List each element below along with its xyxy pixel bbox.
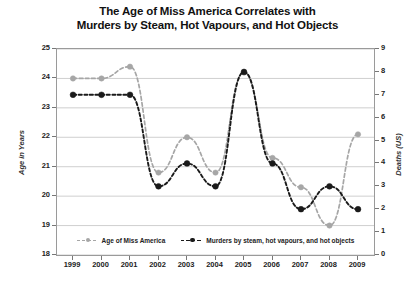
x-tickmark-2002 bbox=[158, 256, 159, 260]
x-tickmark-2001 bbox=[129, 256, 130, 260]
right-tickmark-7 bbox=[375, 94, 379, 95]
data-point-murders-2005 bbox=[241, 69, 247, 75]
x-tickmark-2006 bbox=[272, 256, 273, 260]
left-tickmark-23 bbox=[52, 107, 56, 108]
data-point-age-2004 bbox=[213, 170, 218, 175]
legend-swatch-icon bbox=[77, 237, 99, 244]
right-axis-tick-2: 2 bbox=[381, 203, 403, 212]
legend-marker-dot bbox=[190, 238, 195, 243]
x-tickmark-2005 bbox=[243, 256, 244, 260]
x-tickmark-2008 bbox=[329, 256, 330, 260]
right-axis-tick-0: 0 bbox=[381, 249, 403, 258]
data-point-age-2008 bbox=[327, 223, 332, 228]
left-axis-tick-20: 20 bbox=[28, 190, 50, 199]
legend-entry-murders-by-steam[interactable]: Murders by steam, hot vapours, and hot o… bbox=[181, 237, 354, 244]
left-axis-title: Age in Years bbox=[17, 123, 26, 183]
data-point-age-2001 bbox=[127, 64, 132, 69]
left-axis-tick-22: 22 bbox=[28, 131, 50, 140]
x-tickmark-2004 bbox=[215, 256, 216, 260]
left-axis-tick-24: 24 bbox=[28, 72, 50, 81]
data-point-murders-2003 bbox=[184, 161, 190, 167]
chart-title-line-2: Murders by Steam, Hot Vapours, and Hot O… bbox=[0, 18, 415, 32]
legend-marker-dot bbox=[86, 238, 91, 243]
data-point-age-2006 bbox=[270, 155, 275, 160]
data-point-age-1999 bbox=[70, 76, 75, 81]
left-tickmark-20 bbox=[52, 195, 56, 196]
chart-title-line-1: The Age of Miss America Correlates with bbox=[0, 4, 415, 18]
chart-title: The Age of Miss America Correlates with … bbox=[0, 4, 415, 32]
legend-swatch-icon bbox=[181, 237, 203, 244]
x-tickmark-2000 bbox=[101, 256, 102, 260]
right-tickmark-0 bbox=[375, 254, 379, 255]
x-axis-tick-2009: 2009 bbox=[340, 260, 374, 269]
right-axis-tick-9: 9 bbox=[381, 43, 403, 52]
plot-area bbox=[56, 48, 375, 256]
left-tickmark-25 bbox=[52, 48, 56, 49]
left-tickmark-19 bbox=[52, 225, 56, 226]
data-point-murders-2004 bbox=[213, 183, 219, 189]
left-axis-tick-19: 19 bbox=[28, 220, 50, 229]
x-tickmark-2007 bbox=[300, 256, 301, 260]
data-point-murders-2006 bbox=[270, 161, 276, 167]
left-tickmark-22 bbox=[52, 136, 56, 137]
right-axis-tick-6: 6 bbox=[381, 112, 403, 121]
data-point-murders-2008 bbox=[327, 183, 333, 189]
left-tickmark-18 bbox=[52, 254, 56, 255]
right-tickmark-5 bbox=[375, 140, 379, 141]
legend-label: Age of Miss America bbox=[102, 237, 166, 244]
left-axis-tick-18: 18 bbox=[28, 249, 50, 258]
plot-canvas bbox=[57, 49, 374, 255]
left-tickmark-24 bbox=[52, 77, 56, 78]
left-axis-tick-21: 21 bbox=[28, 161, 50, 170]
right-axis-tick-1: 1 bbox=[381, 226, 403, 235]
left-axis-tick-23: 23 bbox=[28, 102, 50, 111]
data-point-age-2002 bbox=[156, 170, 161, 175]
right-axis-title: Deaths (US) bbox=[394, 125, 403, 185]
data-point-age-2009 bbox=[355, 132, 360, 137]
data-point-age-2000 bbox=[99, 76, 104, 81]
right-axis-tick-7: 7 bbox=[381, 89, 403, 98]
right-tickmark-6 bbox=[375, 117, 379, 118]
data-point-age-2007 bbox=[298, 185, 303, 190]
right-tickmark-9 bbox=[375, 48, 379, 49]
left-tickmark-21 bbox=[52, 166, 56, 167]
right-tickmark-3 bbox=[375, 185, 379, 186]
data-point-murders-2002 bbox=[156, 183, 162, 189]
right-tickmark-8 bbox=[375, 71, 379, 72]
data-point-murders-2001 bbox=[127, 92, 133, 98]
data-point-murders-2007 bbox=[298, 206, 304, 212]
data-point-murders-2000 bbox=[99, 92, 105, 98]
right-tickmark-1 bbox=[375, 231, 379, 232]
legend-label: Murders by steam, hot vapours, and hot o… bbox=[206, 237, 354, 244]
x-tickmark-2003 bbox=[186, 256, 187, 260]
right-axis-tick-8: 8 bbox=[381, 66, 403, 75]
x-tickmark-1999 bbox=[72, 256, 73, 260]
data-point-murders-2009 bbox=[355, 206, 361, 212]
data-point-age-2003 bbox=[184, 135, 189, 140]
right-tickmark-4 bbox=[375, 162, 379, 163]
left-axis-tick-25: 25 bbox=[28, 43, 50, 52]
data-point-murders-1999 bbox=[70, 92, 76, 98]
x-tickmark-2009 bbox=[357, 256, 358, 260]
legend-entry-age-of-miss-america[interactable]: Age of Miss America bbox=[77, 237, 166, 244]
right-tickmark-2 bbox=[375, 208, 379, 209]
chart-legend: Age of Miss AmericaMurders by steam, hot… bbox=[56, 233, 375, 247]
